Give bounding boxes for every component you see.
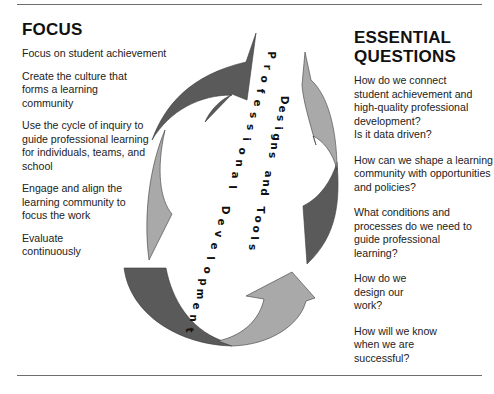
label-letter: o (254, 216, 265, 223)
label-letter: i (242, 137, 253, 141)
label-letter: p (199, 278, 210, 286)
top-right-arrow (302, 52, 337, 170)
label-letter: g (272, 133, 283, 141)
bottom-right-arrow (218, 272, 315, 346)
label-letter (258, 199, 269, 203)
label-letter: D (280, 96, 291, 105)
label-letter: o (203, 267, 214, 274)
label-letter: v (213, 231, 224, 238)
label-letter: e (210, 243, 221, 250)
label-letter: o (252, 225, 263, 232)
cycle-diagram (0, 0, 494, 394)
label-letter (266, 162, 277, 166)
label-letter: s (249, 112, 260, 118)
label-letter: e (192, 303, 203, 310)
label-letter: l (206, 256, 217, 260)
label-letter: e (278, 106, 289, 113)
label-letter: n (235, 159, 246, 166)
bottom-left-arrow (124, 268, 232, 346)
label-letter: s (276, 115, 287, 121)
label-letter: e (217, 219, 228, 226)
label-letter: t (185, 327, 196, 332)
label-letter: n (188, 314, 199, 321)
label-letter: a (264, 170, 275, 177)
label-letter: l (228, 185, 239, 189)
label-letter: T (256, 207, 267, 214)
label-letter: s (245, 124, 256, 130)
label-letter: s (268, 152, 279, 158)
label-letter: i (274, 126, 285, 130)
top-left-arrow (152, 33, 256, 140)
right-arrow (303, 162, 338, 264)
label-letter: P (267, 51, 278, 59)
label-letter: o (260, 75, 271, 82)
label-letter: a (231, 171, 242, 178)
label-letter: n (270, 142, 281, 149)
label-letter (224, 197, 235, 201)
left-arrow (147, 130, 172, 260)
label-letter: D (220, 206, 231, 215)
label-letter: n (262, 179, 273, 186)
label-letter: o (238, 147, 249, 154)
label-letter: m (195, 289, 206, 300)
label-letter: l (250, 236, 261, 240)
label-letter: e (252, 99, 263, 106)
label-letter: f (256, 89, 267, 94)
label-letter: s (248, 244, 259, 250)
label-letter: r (263, 64, 274, 69)
label-letter: d (260, 188, 271, 196)
